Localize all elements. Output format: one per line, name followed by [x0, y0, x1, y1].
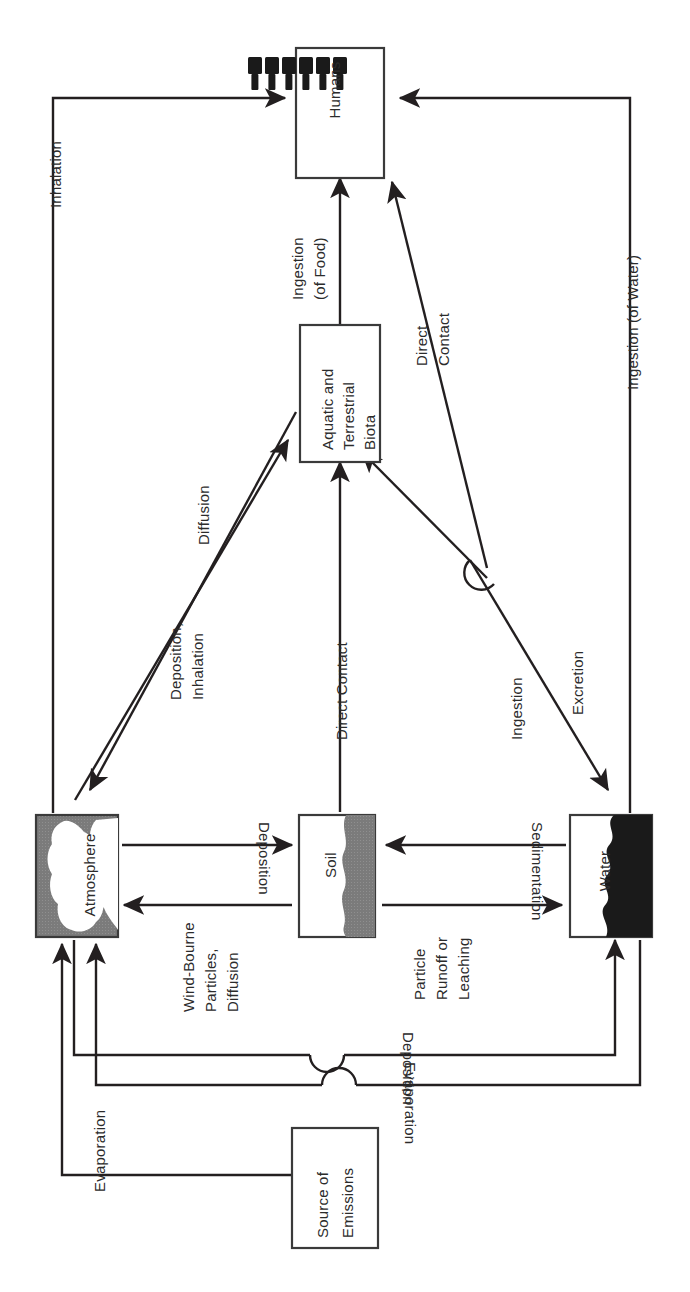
flow-line-evaporation-bottom-a [356, 940, 640, 1085]
flow-label-direct-contact-humans-line2: Contact [436, 276, 452, 366]
flow-label-inhalation: Inhalation [48, 68, 64, 208]
flow-line-deposition-bottom-b [344, 940, 615, 1055]
flow-label-excretion: Excretion [570, 605, 586, 715]
node-label-biota-line1: Aquatic and [320, 320, 336, 450]
flow-label-deposition-inhalation-line2: Inhalation [190, 560, 206, 700]
flow-line-inhalation [53, 98, 285, 813]
flow-label-ingestion-food-line1: Ingestion [290, 190, 306, 300]
flow-line-excretion [470, 560, 608, 790]
diagram-canvas: Humans Aquatic and Terrestrial Biota Atm… [0, 0, 690, 1292]
node-box-source[interactable] [292, 1128, 378, 1248]
flow-label-diffusion: Diffusion [196, 435, 212, 545]
flow-label-wind-bourne-line3: Diffusion [225, 872, 241, 1012]
flow-label-wind-bourne-line1: Wind-Bourne [181, 872, 197, 1012]
flow-line-direct-contact-humans [392, 182, 487, 568]
flow-label-direct-contact-soil: Direct Contact [334, 590, 350, 740]
flow-label-deposition-inhalation-line1: Deposition, [168, 560, 184, 700]
node-label-source-line2: Emissions [340, 1118, 356, 1238]
node-label-biota-line2: Terrestrial [341, 320, 357, 450]
flow-label-evaporation-bottom: Evaporation [402, 1062, 418, 1202]
line-hop-arc-evaporation [322, 1068, 356, 1085]
soil-fill-shape [342, 815, 375, 937]
node-label-water: Water [597, 836, 613, 906]
flow-label-wind-bourne-line2: Particles, [203, 872, 219, 1012]
flow-label-particle-runoff-line3: Leaching [456, 860, 472, 1000]
node-label-source-line1: Source of [315, 1118, 331, 1238]
flow-label-particle-runoff-line2: Runoff or [434, 860, 450, 1000]
line-hop-arc-deposition [310, 1055, 344, 1072]
flow-line-ingestion-biota [362, 452, 487, 578]
flow-label-deposition-soil: Deposition [256, 822, 272, 942]
flow-label-ingestion-water: Ingestion (of Water) [625, 170, 641, 390]
flow-label-particle-runoff-line1: Particle [412, 860, 428, 1000]
node-label-biota-line3: Biota [362, 320, 378, 450]
flow-label-ingestion-biota: Ingestion [509, 630, 525, 740]
flow-label-evaporation-source: Evaporation [92, 1052, 108, 1192]
flow-label-direct-contact-humans-line1: Direct [414, 276, 430, 366]
node-label-atmosphere: Atmosphere [82, 820, 98, 930]
flow-label-sedimentation: Sedimentation [529, 822, 545, 982]
flow-label-ingestion-food-line2: (of Food) [312, 190, 328, 300]
node-label-humans: Humans [327, 40, 343, 140]
node-label-soil: Soil [323, 835, 339, 895]
